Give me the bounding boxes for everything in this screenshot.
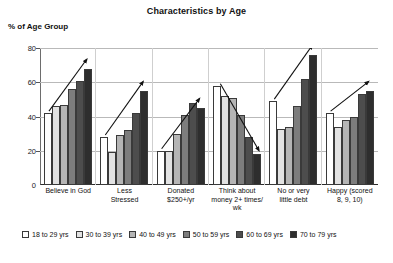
x-label-group-5: Happy (scored 8, 9, 10) — [322, 187, 378, 213]
bar[interactable] — [52, 106, 60, 185]
x-label-line: wk — [210, 204, 264, 213]
bar[interactable] — [132, 113, 140, 185]
bar-cluster — [100, 48, 148, 185]
bar[interactable] — [293, 106, 301, 185]
y-tick-label-80: 80 — [28, 44, 36, 53]
x-label-group-4: No or very little debt — [265, 187, 321, 213]
legend-item[interactable]: 60 to 69 yrs — [236, 231, 283, 238]
bar-group — [209, 48, 265, 185]
bar[interactable] — [68, 89, 76, 185]
bar[interactable] — [221, 96, 229, 185]
legend-swatch-icon — [76, 231, 83, 238]
legend-item[interactable]: 70 to 79 yrs — [290, 231, 337, 238]
y-tick-label-0: 0 — [32, 181, 36, 190]
bar-groups — [40, 48, 378, 185]
bar[interactable] — [269, 101, 277, 185]
bar[interactable] — [334, 127, 342, 185]
bar-cluster — [269, 48, 317, 185]
bar[interactable] — [189, 103, 197, 185]
x-label-line: Happy (scored — [323, 187, 377, 196]
bar[interactable] — [213, 86, 221, 185]
x-label-line: Think about — [210, 187, 264, 196]
bar[interactable] — [108, 152, 116, 185]
bar[interactable] — [116, 135, 124, 185]
chart-title: Characteristics by Age — [0, 6, 393, 16]
bar[interactable] — [165, 151, 173, 185]
bar[interactable] — [366, 91, 374, 185]
bar-cluster — [44, 48, 92, 185]
x-label-line: Less — [97, 187, 151, 196]
bar[interactable] — [342, 120, 350, 185]
legend-swatch-icon — [290, 231, 297, 238]
legend-label: 30 to 39 yrs — [86, 231, 123, 238]
bar[interactable] — [277, 129, 285, 186]
bar-cluster — [326, 48, 374, 185]
legend-label: 40 to 49 yrs — [139, 231, 176, 238]
bar[interactable] — [253, 154, 261, 185]
x-label-line: little debt — [266, 196, 320, 205]
chart-legend: 18 to 29 yrs30 to 39 yrs40 to 49 yrs50 t… — [22, 231, 377, 238]
y-tick-label-60: 60 — [28, 78, 36, 87]
bar[interactable] — [124, 130, 132, 185]
y-tick-label-40: 40 — [28, 112, 36, 121]
bar[interactable] — [237, 115, 245, 185]
bar[interactable] — [358, 94, 366, 185]
bar[interactable] — [285, 127, 293, 185]
bar[interactable] — [301, 79, 309, 185]
bar[interactable] — [157, 151, 165, 185]
bar[interactable] — [60, 105, 68, 185]
bar[interactable] — [173, 134, 181, 185]
x-label-line: $250+/yr — [154, 196, 208, 205]
bar[interactable] — [84, 69, 92, 185]
x-label-line: Stressed — [97, 196, 151, 205]
legend-item[interactable]: 30 to 39 yrs — [76, 231, 123, 238]
x-label-group-1: Less Stressed — [96, 187, 152, 213]
bar-cluster — [213, 48, 261, 185]
legend-swatch-icon — [22, 231, 29, 238]
bar[interactable] — [229, 98, 237, 185]
legend-swatch-icon — [183, 231, 190, 238]
legend-item[interactable]: 18 to 29 yrs — [22, 231, 69, 238]
y-axis: 80 60 40 20 0 — [0, 48, 40, 185]
x-label-group-0: Believe in God — [40, 187, 96, 213]
legend-label: 18 to 29 yrs — [32, 231, 69, 238]
x-label-group-3: Think about money 2+ times/ wk — [209, 187, 265, 213]
bar-group — [322, 48, 378, 185]
legend-swatch-icon — [129, 231, 136, 238]
y-axis-title: % of Age Group — [8, 22, 68, 31]
bar-group — [96, 48, 152, 185]
bar[interactable] — [309, 55, 317, 185]
legend-label: 60 to 69 yrs — [246, 231, 283, 238]
bar-group — [153, 48, 209, 185]
x-label-line: Believe in God — [41, 187, 95, 196]
bar[interactable] — [350, 117, 358, 186]
plot-area — [40, 48, 378, 185]
bar[interactable] — [245, 137, 253, 185]
x-label-group-2: Donated $250+/yr — [153, 187, 209, 213]
x-label-line: 8, 9, 10) — [323, 196, 377, 205]
legend-item[interactable]: 50 to 59 yrs — [183, 231, 230, 238]
bar[interactable] — [44, 113, 52, 185]
bar[interactable] — [326, 113, 334, 185]
x-label-line: No or very — [266, 187, 320, 196]
bar[interactable] — [100, 137, 108, 185]
bar-group — [40, 48, 96, 185]
bar-group — [265, 48, 321, 185]
legend-label: 50 to 59 yrs — [193, 231, 230, 238]
bar[interactable] — [76, 81, 84, 185]
y-tick-label-20: 20 — [28, 146, 36, 155]
legend-label: 70 to 79 yrs — [300, 231, 337, 238]
chart-container: Characteristics by Age % of Age Group 80… — [0, 0, 393, 263]
x-label-line: Donated — [154, 187, 208, 196]
legend-item[interactable]: 40 to 49 yrs — [129, 231, 176, 238]
bar[interactable] — [181, 115, 189, 185]
bar[interactable] — [140, 91, 148, 185]
x-axis-labels: Believe in God Less Stressed Donated $25… — [40, 187, 378, 213]
x-label-line: money 2+ times/ — [210, 196, 264, 205]
bar-cluster — [157, 48, 205, 185]
bar[interactable] — [197, 108, 205, 185]
legend-swatch-icon — [236, 231, 243, 238]
